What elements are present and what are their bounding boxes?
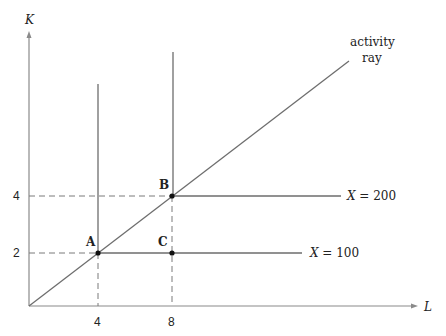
x-axis-label: L bbox=[423, 300, 432, 314]
isoquant-x100-label: X = 100 bbox=[309, 246, 359, 260]
isoquant-x100-var: X bbox=[309, 246, 319, 260]
isoquants bbox=[98, 52, 341, 253]
x-axis-arrow-icon bbox=[411, 304, 418, 309]
y-axis-arrow-icon bbox=[27, 31, 32, 38]
axes bbox=[27, 31, 419, 309]
point-b bbox=[169, 193, 174, 198]
y-tick-2: 2 bbox=[13, 246, 20, 260]
point-a-label: A bbox=[85, 235, 96, 249]
isoquant-x200-value: 200 bbox=[373, 189, 396, 203]
point-b-label: B bbox=[159, 178, 169, 192]
point-a bbox=[95, 250, 100, 255]
isoquant-x200 bbox=[173, 52, 341, 196]
x-tick-8: 8 bbox=[168, 315, 175, 329]
isoquant-x200-var: X bbox=[346, 189, 356, 203]
isoquant-x100-value: 100 bbox=[336, 246, 359, 260]
point-c-label: C bbox=[158, 235, 168, 249]
activity-ray-label-line1: activity bbox=[350, 35, 395, 49]
y-axis-label: K bbox=[24, 13, 35, 27]
isoquant-x100 bbox=[98, 84, 302, 253]
svg-text:X = 200: X = 200 bbox=[346, 189, 396, 203]
isoquant-x200-label: X = 200 bbox=[346, 189, 396, 203]
activity-ray bbox=[29, 61, 349, 306]
y-tick-4: 4 bbox=[13, 189, 20, 203]
x-tick-4: 4 bbox=[94, 315, 101, 329]
activity-ray-label-line2: ray bbox=[362, 51, 382, 65]
isoquant-diagram: A B C K L 4 2 4 8 X = 200 X = 100 activi… bbox=[0, 0, 446, 336]
point-c bbox=[169, 250, 174, 255]
svg-text:X = 100: X = 100 bbox=[309, 246, 359, 260]
